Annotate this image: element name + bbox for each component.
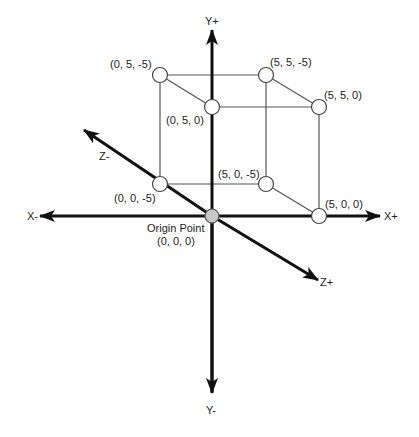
vertex-label-5-0-m5: (5, 0, -5): [218, 168, 260, 180]
origin-point: [205, 209, 219, 223]
vertex-label-0-5-m5: (0, 5, -5): [110, 58, 152, 70]
vertex-label-5-0-0: (5, 0, 0): [325, 198, 363, 210]
z-pos-label: Z+: [320, 276, 333, 288]
vertex-label-5-5-m5: (5, 5, -5): [270, 56, 312, 68]
y-pos-label: Y+: [205, 15, 219, 27]
y-neg-label: Y-: [206, 404, 216, 416]
origin-coords: (0, 0, 0): [157, 235, 195, 247]
vertex-0-5-m5: [153, 68, 168, 83]
vertex-5-0-0: [312, 209, 327, 224]
vertex-0-5-0: [205, 100, 220, 115]
vertex-5-0-m5: [259, 177, 274, 192]
vertex-label-5-5-0: (5, 5, 0): [324, 89, 362, 101]
vertex-label-0-0-m5: (0, 0, -5): [114, 192, 156, 204]
edge-top-left: [160, 75, 212, 107]
x-neg-label: X-: [27, 210, 38, 222]
edge-bottom-right: [266, 184, 319, 216]
vertex-0-0-m5: [153, 177, 168, 192]
vertex-label-0-5-0: (0, 5, 0): [166, 114, 204, 126]
coordinate-diagram: Y+ Y- X- X+ Z- Z+ (0, 5, -5) (5, 5, -5) …: [0, 0, 419, 437]
vertex-5-5-m5: [259, 68, 274, 83]
x-pos-label: X+: [384, 210, 398, 222]
cube-edges: [160, 75, 319, 216]
vertices: [153, 68, 327, 224]
edge-top-right: [266, 75, 319, 107]
origin-label: Origin Point: [147, 222, 204, 234]
z-neg-label: Z-: [99, 150, 110, 162]
z-axis-pos: [212, 216, 318, 280]
vertex-5-5-0: [312, 100, 327, 115]
